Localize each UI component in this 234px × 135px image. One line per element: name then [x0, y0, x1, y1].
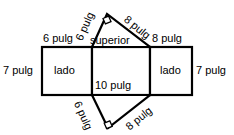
diagram-canvas: lado lado superior 7 pulg 7 pulg 6 pulg … [0, 0, 234, 135]
dimension-left-top-width: 6 pulg [43, 33, 73, 44]
dimension-right-top-width: 8 pulg [152, 33, 182, 44]
face-label-right-lado: lado [160, 65, 181, 76]
bottom-right-angle-icon [104, 121, 112, 129]
face-label-left-lado: lado [54, 65, 75, 76]
dimension-right-height: 7 pulg [196, 65, 226, 76]
top-right-angle-icon [103, 16, 111, 24]
dimension-middle-bottom-width: 10 pulg [95, 80, 131, 91]
face-label-superior: superior [90, 35, 130, 46]
dimension-left-height: 7 pulg [3, 65, 33, 76]
